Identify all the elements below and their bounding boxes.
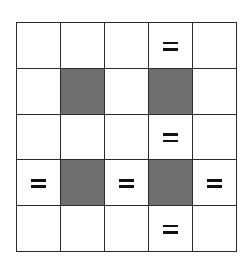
grid-cell-r1-c2[interactable]	[61, 23, 105, 69]
grid-cell-r1-c4-marked[interactable]	[149, 23, 193, 69]
grid-cell-r1-c3[interactable]	[105, 23, 149, 69]
grid-row	[17, 114, 237, 160]
equals-icon	[163, 225, 178, 234]
grid-cell-r2-c5[interactable]	[193, 68, 237, 114]
grid-cell-r4-c1-marked[interactable]	[17, 160, 61, 206]
grid-cell-r1-c5[interactable]	[193, 23, 237, 69]
puzzle-grid	[16, 22, 237, 252]
equals-icon	[163, 133, 178, 142]
grid-cell-r4-c3-marked[interactable]	[105, 160, 149, 206]
grid-cell-r3-c4-marked[interactable]	[149, 114, 193, 160]
grid-container	[16, 22, 231, 246]
grid-cell-r4-c2-shaded[interactable]	[61, 160, 105, 206]
grid-row	[17, 160, 237, 206]
grid-cell-r5-c2[interactable]	[61, 206, 105, 252]
equals-icon	[207, 179, 222, 188]
grid-cell-r2-c2-shaded[interactable]	[61, 68, 105, 114]
grid-cell-r5-c5[interactable]	[193, 206, 237, 252]
grid-cell-r2-c4-shaded[interactable]	[149, 68, 193, 114]
grid-row	[17, 23, 237, 69]
grid-cell-r3-c5[interactable]	[193, 114, 237, 160]
grid-cell-r1-c1[interactable]	[17, 23, 61, 69]
grid-cell-r2-c1[interactable]	[17, 68, 61, 114]
grid-row	[17, 206, 237, 252]
grid-cell-r4-c5-marked[interactable]	[193, 160, 237, 206]
grid-cell-r5-c1[interactable]	[17, 206, 61, 252]
grid-row	[17, 68, 237, 114]
equals-icon	[163, 42, 178, 51]
grid-cell-r4-c4-shaded[interactable]	[149, 160, 193, 206]
grid-cell-r2-c3[interactable]	[105, 68, 149, 114]
grid-body	[17, 23, 237, 252]
grid-cell-r5-c3[interactable]	[105, 206, 149, 252]
grid-cell-r3-c1[interactable]	[17, 114, 61, 160]
grid-cell-r3-c3[interactable]	[105, 114, 149, 160]
equals-icon	[119, 179, 134, 188]
equals-icon	[31, 179, 46, 188]
grid-cell-r5-c4-marked[interactable]	[149, 206, 193, 252]
grid-cell-r3-c2[interactable]	[61, 114, 105, 160]
